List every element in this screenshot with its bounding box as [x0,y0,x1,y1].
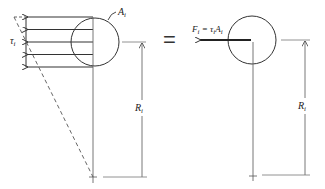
force-label: Fi = τiAi [191,24,223,36]
area-leader-line [108,12,116,20]
stress-arrows [27,17,93,67]
right-panel: Fi = τiAi Ri [191,16,313,181]
left-panel: Ai τi Ri [10,6,150,183]
equals-sign: = [163,27,176,52]
stress-label: τi [10,35,16,48]
area-label: Ai [117,6,126,19]
diagram-canvas: Ai τi Ri = Fi = τiAi Ri [0,0,325,189]
